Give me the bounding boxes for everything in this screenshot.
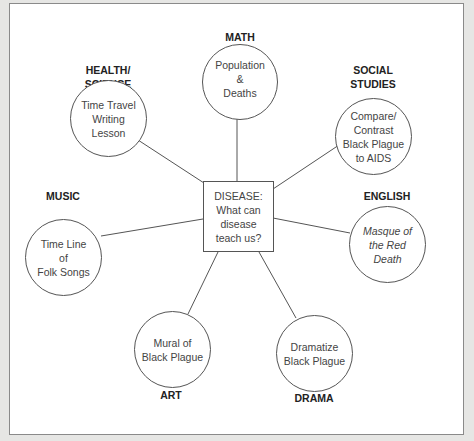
central-topic-box: DISEASE: What can disease teach us?	[203, 181, 274, 252]
activity-node-health-science: Time Travel Writing Lesson	[70, 80, 147, 157]
activity-text-music: Time Line of Folk Songs	[37, 237, 90, 279]
subject-label-music: MUSIC	[46, 189, 80, 203]
activity-node-math: Population & Deaths	[202, 44, 278, 120]
activity-text-health-science: Time Travel Writing Lesson	[81, 98, 135, 140]
connector-social	[273, 143, 342, 189]
connector-health	[138, 140, 204, 183]
activity-node-english: Masque of the Red Death	[349, 206, 426, 283]
subject-label-drama: DRAMA	[294, 391, 333, 405]
activity-node-art: Mural of Black Plague	[134, 311, 211, 388]
activity-node-drama: Dramatize Black Plague	[276, 315, 353, 392]
activity-text-english: Masque of the Red Death	[363, 224, 412, 266]
activity-text-drama: Dramatize Black Plague	[284, 340, 345, 368]
activity-node-music: Time Line of Folk Songs	[25, 219, 102, 296]
activity-node-social-studies: Compare/ Contrast Black Plague to AIDS	[335, 98, 412, 175]
subject-label-social-studies: SOCIAL STUDIES	[350, 63, 396, 91]
connector-art	[188, 252, 218, 314]
subject-label-english: ENGLISH	[364, 189, 411, 203]
activity-text-art: Mural of Black Plague	[142, 336, 203, 364]
subject-label-art: ART	[160, 388, 182, 402]
subject-label-math: MATH	[225, 30, 255, 44]
connector-english	[273, 218, 350, 233]
activity-text-social-studies: Compare/ Contrast Black Plague to AIDS	[343, 109, 404, 165]
activity-text-math: Population & Deaths	[215, 58, 265, 100]
connector-drama	[259, 252, 296, 318]
connector-music	[101, 219, 203, 236]
